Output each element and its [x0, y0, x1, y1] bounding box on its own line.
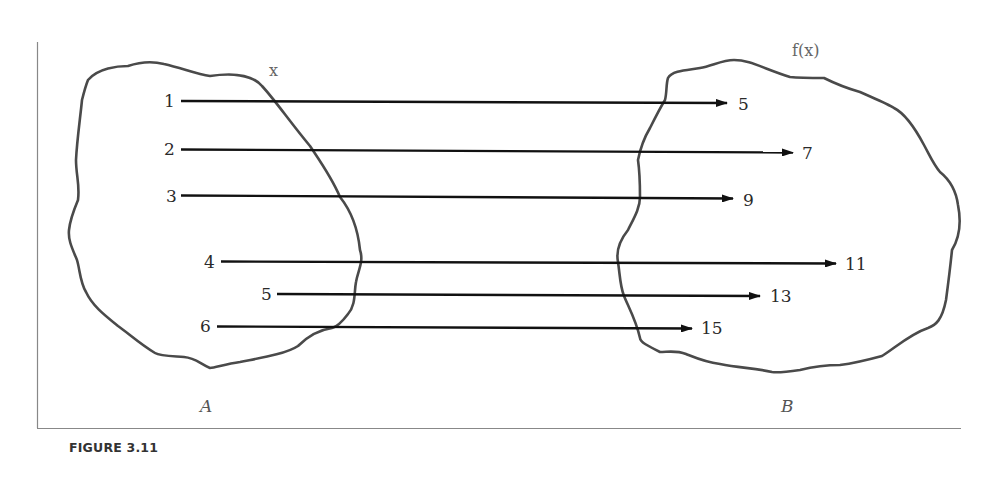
input-label-4: 4	[204, 252, 215, 272]
codomain-function-label: f(x)	[792, 41, 819, 60]
mapping-arrow-1	[181, 101, 727, 103]
input-label-6: 6	[200, 316, 211, 336]
set-b-label: B	[780, 396, 794, 416]
mapping-arrow-6	[217, 327, 692, 329]
output-label-7: 7	[802, 143, 813, 163]
set-a-label: A	[198, 396, 212, 416]
output-label-13: 13	[770, 286, 792, 306]
mapping-arrow-2	[181, 150, 793, 153]
input-label-2: 2	[164, 139, 175, 159]
set-b-outline	[617, 60, 959, 372]
domain-variable-label: x	[269, 61, 278, 80]
mapping-arrow-3	[181, 196, 733, 199]
output-label-15: 15	[701, 318, 723, 338]
input-label-5: 5	[261, 284, 272, 304]
output-label-9: 9	[743, 190, 754, 210]
output-label-11: 11	[845, 254, 867, 274]
input-label-3: 3	[166, 186, 177, 206]
output-label-5: 5	[738, 94, 749, 114]
mapping-arrow-5	[277, 294, 760, 296]
mapping-arrow-4	[221, 262, 836, 264]
figure-caption: FIGURE 3.11	[69, 440, 158, 455]
input-label-1: 1	[164, 91, 175, 111]
set-a-outline	[69, 62, 361, 368]
function-mapping-diagram: 1 2 3 4 5 6 5 7 9 11 13 15 x f(x) A B	[0, 0, 999, 487]
